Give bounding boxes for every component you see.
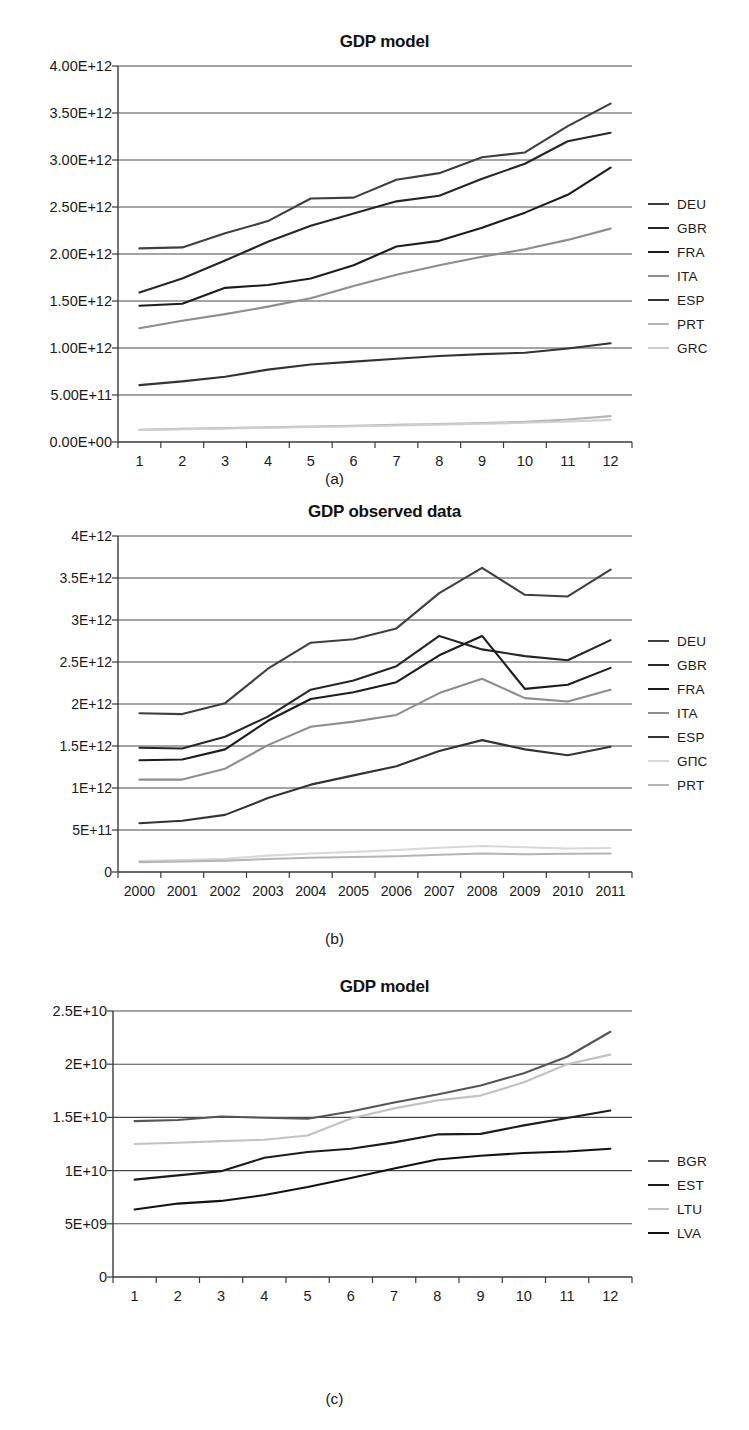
- legend-line-icon: [648, 784, 669, 786]
- svg-text:2007: 2007: [424, 883, 455, 899]
- svg-text:9: 9: [478, 453, 486, 469]
- legend-line-icon: [648, 1232, 669, 1234]
- panel-caption-a-text: (a): [325, 470, 424, 488]
- legend-item-label: ITA: [677, 269, 698, 284]
- legend-item-label: ESP: [677, 293, 705, 308]
- svg-text:1E+10: 1E+10: [65, 1163, 107, 1179]
- legend-item-ita[interactable]: ITA: [648, 264, 708, 288]
- chart-title-b: GDP observed data: [0, 500, 749, 524]
- chart-legend-b: DEUGBRFRAITAESPGПCPRT: [648, 629, 708, 797]
- legend-item-label: LTU: [677, 1202, 702, 1217]
- svg-text:8: 8: [433, 1288, 441, 1304]
- chart-legend-c: BGRESTLTULVA: [648, 1149, 707, 1245]
- plot-area-c: 05E+091E+101.5E+102E+102.5E+101234567891…: [0, 999, 660, 1399]
- legend-item-label: GBR: [677, 221, 707, 236]
- legend-item-fra[interactable]: FRA: [648, 240, 708, 264]
- svg-text:1.00E+12: 1.00E+12: [50, 340, 113, 356]
- legend-item-prt[interactable]: PRT: [648, 312, 708, 336]
- legend-line-icon: [648, 203, 669, 205]
- legend-line-icon: [648, 251, 669, 253]
- legend-line-icon: [648, 1184, 669, 1186]
- svg-text:11: 11: [560, 1288, 575, 1304]
- legend-item-deu[interactable]: DEU: [648, 192, 708, 216]
- legend-item-label: GBR: [677, 658, 707, 673]
- line-chart-a-svg: 0.00E+005.00E+111.00E+121.50E+122.00E+12…: [0, 54, 660, 474]
- svg-text:2005: 2005: [338, 883, 369, 899]
- svg-text:1.5E+10: 1.5E+10: [53, 1109, 107, 1125]
- svg-text:2002: 2002: [210, 883, 241, 899]
- legend-item-label: ESP: [677, 730, 705, 745]
- svg-text:6: 6: [350, 453, 358, 469]
- legend-item-esp[interactable]: ESP: [648, 288, 708, 312]
- svg-text:2: 2: [178, 453, 186, 469]
- figure-panel-a: GDP model 0.00E+005.00E+111.00E+121.50E+…: [0, 30, 749, 485]
- svg-text:2003: 2003: [252, 883, 283, 899]
- legend-item-ita[interactable]: ITA: [648, 701, 708, 725]
- svg-text:2001: 2001: [167, 883, 198, 899]
- legend-item-fra[interactable]: FRA: [648, 677, 708, 701]
- legend-line-icon: [648, 736, 669, 738]
- svg-text:8: 8: [435, 453, 443, 469]
- svg-text:7: 7: [392, 453, 400, 469]
- svg-text:1: 1: [135, 453, 143, 469]
- legend-item-esp[interactable]: ESP: [648, 725, 708, 749]
- legend-item-label: BGR: [677, 1154, 707, 1169]
- legend-line-icon: [648, 688, 669, 690]
- legend-item-label: PRT: [677, 317, 704, 332]
- svg-text:2006: 2006: [381, 883, 412, 899]
- legend-item-bgr[interactable]: BGR: [648, 1149, 707, 1173]
- svg-text:2010: 2010: [552, 883, 583, 899]
- svg-text:4.00E+12: 4.00E+12: [50, 58, 113, 74]
- plot-area-a: 0.00E+005.00E+111.00E+121.50E+122.00E+12…: [0, 54, 660, 474]
- svg-text:3: 3: [221, 453, 229, 469]
- legend-item-prt[interactable]: PRT: [648, 773, 708, 797]
- legend-line-icon: [648, 664, 669, 666]
- legend-line-icon: [648, 640, 669, 642]
- svg-text:2.50E+12: 2.50E+12: [50, 199, 113, 215]
- svg-text:3E+12: 3E+12: [71, 612, 112, 628]
- svg-text:6: 6: [347, 1288, 355, 1304]
- svg-text:0.00E+00: 0.00E+00: [50, 434, 113, 450]
- legend-item-lva[interactable]: LVA: [648, 1221, 707, 1245]
- legend-line-icon: [648, 760, 669, 762]
- legend-line-icon: [648, 712, 669, 714]
- plot-area-b: 05E+111E+121.5E+122E+122.5E+123E+123.5E+…: [0, 524, 660, 934]
- legend-line-icon: [648, 1160, 669, 1162]
- svg-text:5: 5: [307, 453, 315, 469]
- legend-item-label: ITA: [677, 706, 698, 721]
- svg-text:11: 11: [560, 453, 575, 469]
- panel-caption-c: (c): [0, 1390, 749, 1408]
- svg-text:4: 4: [264, 453, 272, 469]
- svg-text:2: 2: [174, 1288, 182, 1304]
- svg-text:5.00E+11: 5.00E+11: [51, 387, 112, 403]
- svg-text:2E+12: 2E+12: [71, 696, 112, 712]
- legend-item-label: DEU: [677, 634, 706, 649]
- legend-item-deu[interactable]: DEU: [648, 629, 708, 653]
- legend-item-ltu[interactable]: LTU: [648, 1197, 707, 1221]
- legend-line-icon: [648, 299, 669, 301]
- svg-text:9: 9: [477, 1288, 485, 1304]
- svg-text:5: 5: [304, 1288, 312, 1304]
- legend-item-gbr[interactable]: GBR: [648, 653, 708, 677]
- svg-text:4E+12: 4E+12: [71, 528, 112, 544]
- svg-text:10: 10: [517, 453, 533, 469]
- legend-item-grc[interactable]: GRC: [648, 336, 708, 360]
- legend-item-est[interactable]: EST: [648, 1173, 707, 1197]
- panel-caption-b-text: (b): [325, 930, 424, 948]
- svg-text:10: 10: [516, 1288, 532, 1304]
- legend-item-gbr[interactable]: GBR: [648, 216, 708, 240]
- svg-text:5E+11: 5E+11: [72, 822, 112, 838]
- svg-text:2.5E+10: 2.5E+10: [53, 1003, 107, 1019]
- svg-text:0: 0: [99, 1269, 107, 1285]
- legend-item-label: FRA: [677, 682, 705, 697]
- legend-line-icon: [648, 227, 669, 229]
- legend-item-label: LVA: [677, 1226, 701, 1241]
- line-chart-b-svg: 05E+111E+121.5E+122E+122.5E+123E+123.5E+…: [0, 524, 660, 934]
- svg-text:1E+12: 1E+12: [71, 780, 112, 796]
- legend-item-label: EST: [677, 1178, 704, 1193]
- svg-text:3.5E+12: 3.5E+12: [59, 570, 112, 586]
- svg-text:2008: 2008: [467, 883, 498, 899]
- legend-item-gпc[interactable]: GПC: [648, 749, 708, 773]
- svg-text:2000: 2000: [124, 883, 155, 899]
- line-chart-c-svg: 05E+091E+101.5E+102E+102.5E+101234567891…: [0, 999, 660, 1399]
